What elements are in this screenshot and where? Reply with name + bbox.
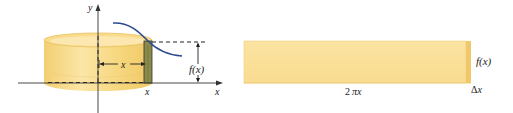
shell-method-diagram: x f(x) y x x f(x) 2πx Δx: [0, 0, 513, 113]
y-axis-arrow-icon: [96, 4, 101, 11]
slab-face: [244, 41, 466, 83]
slab-edge: [466, 41, 471, 83]
y-axis-label: y: [87, 2, 93, 13]
height-label: f(x): [189, 63, 205, 76]
unrolled-slab: [244, 41, 471, 83]
height-arrow-up-icon: [196, 43, 200, 48]
slab-thickness-label: Δx: [471, 84, 482, 95]
shell-position-label: x: [144, 86, 150, 97]
x-axis-arrow-icon: [216, 81, 223, 86]
slab-length-label: 2πx: [345, 86, 362, 97]
radius-label: x: [120, 59, 126, 70]
height-arrow-down-icon: [196, 78, 200, 83]
slab-height-label: f(x): [476, 55, 492, 68]
x-axis-label: x: [214, 86, 220, 97]
